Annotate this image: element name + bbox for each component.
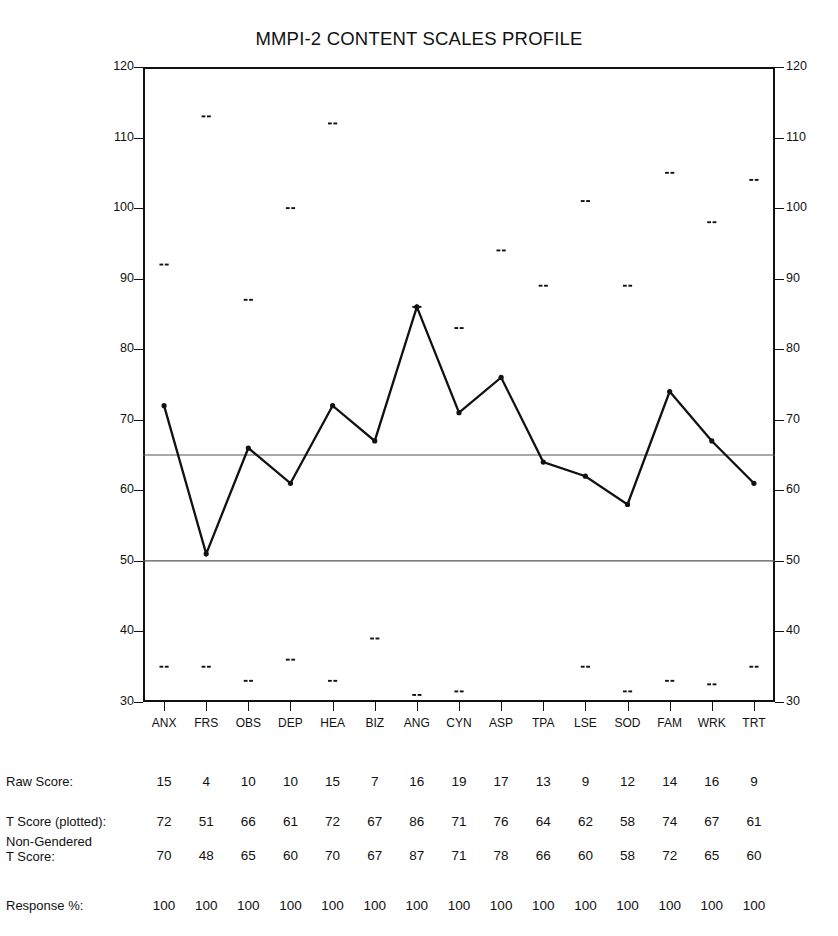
table-cell-FAM: 14 [648, 774, 692, 789]
table-cell-SOD: 58 [606, 814, 650, 829]
y-tick-mark-right-50 [775, 561, 784, 562]
data-point-LSE [583, 474, 588, 479]
y-tick-mark-right-30 [775, 702, 784, 703]
table-cell-OBS: 65 [226, 848, 270, 863]
y-tick-mark-right-60 [775, 490, 784, 491]
table-cell-TRT: 61 [732, 814, 776, 829]
table-cell-TRT: 60 [732, 848, 776, 863]
table-cell-WRK: 67 [690, 814, 734, 829]
table-cell-ANX: 70 [142, 848, 186, 863]
x-tick-mark-OBS [248, 702, 249, 711]
table-cell-HEA: 100 [311, 898, 355, 913]
table-cell-ANG: 100 [395, 898, 439, 913]
y-tick-label-left-40: 40 [100, 623, 134, 637]
table-cell-BIZ: 7 [353, 774, 397, 789]
y-tick-label-right-60: 60 [786, 482, 820, 496]
table-cell-FRS: 51 [184, 814, 228, 829]
y-tick-mark-left-70 [134, 420, 143, 421]
row-label: T Score (plotted): [6, 814, 106, 829]
y-tick-mark-left-100 [134, 208, 143, 209]
y-tick-mark-left-30 [134, 702, 143, 703]
plot-area [143, 67, 775, 702]
x-axis-label-TRT: TRT [724, 716, 784, 730]
table-cell-SOD: 58 [606, 848, 650, 863]
table-cell-CYN: 71 [437, 848, 481, 863]
y-tick-label-right-80: 80 [786, 341, 820, 355]
table-cell-FAM: 74 [648, 814, 692, 829]
y-tick-label-left-80: 80 [100, 341, 134, 355]
table-cell-CYN: 19 [437, 774, 481, 789]
y-tick-label-right-50: 50 [786, 553, 820, 567]
table-cell-BIZ: 100 [353, 898, 397, 913]
row-label: Non-GenderedT Score: [6, 834, 92, 864]
data-point-FAM [667, 389, 672, 394]
table-row: Raw Score:15410101571619171391214169 [0, 774, 838, 796]
table-cell-TPA: 100 [521, 898, 565, 913]
x-tick-mark-BIZ [375, 702, 376, 711]
y-tick-mark-right-70 [775, 420, 784, 421]
x-tick-mark-WRK [712, 702, 713, 711]
table-row: T Score (plotted):7251666172678671766462… [0, 814, 838, 836]
table-cell-HEA: 70 [311, 848, 355, 863]
table-cell-ANX: 100 [142, 898, 186, 913]
table-cell-WRK: 65 [690, 848, 734, 863]
table-cell-BIZ: 67 [353, 848, 397, 863]
table-cell-HEA: 15 [311, 774, 355, 789]
table-cell-ANG: 16 [395, 774, 439, 789]
table-cell-WRK: 16 [690, 774, 734, 789]
row-label-line1: Non-Gendered [6, 834, 92, 849]
table-cell-LSE: 100 [563, 898, 607, 913]
table-cell-OBS: 10 [226, 774, 270, 789]
data-point-DEP [288, 481, 293, 486]
x-tick-mark-DEP [290, 702, 291, 711]
row-label: Response %: [6, 898, 83, 913]
y-tick-label-left-30: 30 [100, 694, 134, 708]
y-tick-label-left-50: 50 [100, 553, 134, 567]
table-cell-DEP: 100 [268, 898, 312, 913]
y-tick-label-right-70: 70 [786, 412, 820, 426]
x-tick-mark-FAM [670, 702, 671, 711]
y-tick-mark-left-80 [134, 349, 143, 350]
y-tick-label-left-90: 90 [100, 271, 134, 285]
y-tick-mark-right-80 [775, 349, 784, 350]
table-cell-LSE: 9 [563, 774, 607, 789]
y-tick-mark-left-60 [134, 490, 143, 491]
table-cell-DEP: 10 [268, 774, 312, 789]
table-cell-ANX: 15 [142, 774, 186, 789]
data-point-SOD [625, 502, 630, 507]
table-cell-ANG: 87 [395, 848, 439, 863]
table-row: Non-GenderedT Score:70486560706787717866… [0, 848, 838, 870]
table-cell-TPA: 13 [521, 774, 565, 789]
y-tick-label-left-70: 70 [100, 412, 134, 426]
table-cell-TRT: 9 [732, 774, 776, 789]
table-cell-TPA: 66 [521, 848, 565, 863]
table-cell-SOD: 12 [606, 774, 650, 789]
x-tick-mark-SOD [628, 702, 629, 711]
y-tick-label-left-110: 110 [100, 130, 134, 144]
data-point-HEA [330, 403, 335, 408]
row-label-line2: T Score: [6, 849, 92, 864]
table-cell-BIZ: 67 [353, 814, 397, 829]
table-cell-ANG: 86 [395, 814, 439, 829]
profile-line-chart [143, 67, 775, 702]
x-tick-mark-ANG [417, 702, 418, 711]
y-tick-label-left-100: 100 [100, 200, 134, 214]
y-tick-label-right-110: 110 [786, 130, 820, 144]
row-label: Raw Score: [6, 774, 73, 789]
y-tick-mark-left-120 [134, 67, 143, 68]
y-tick-label-left-120: 120 [100, 59, 134, 73]
data-point-ASP [499, 375, 504, 380]
y-tick-mark-left-90 [134, 279, 143, 280]
x-tick-mark-HEA [333, 702, 334, 711]
table-cell-ASP: 78 [479, 848, 523, 863]
x-tick-mark-ANX [164, 702, 165, 711]
data-point-WRK [709, 438, 714, 443]
table-cell-ASP: 100 [479, 898, 523, 913]
table-cell-TRT: 100 [732, 898, 776, 913]
table-cell-CYN: 71 [437, 814, 481, 829]
y-tick-label-right-120: 120 [786, 59, 820, 73]
y-tick-label-right-30: 30 [786, 694, 820, 708]
y-tick-mark-left-110 [134, 138, 143, 139]
table-cell-CYN: 100 [437, 898, 481, 913]
y-tick-mark-right-110 [775, 138, 784, 139]
